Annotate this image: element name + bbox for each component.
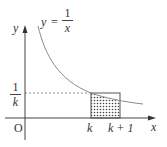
x-tick-k: k [87,122,92,134]
y-axis-label: y [13,22,18,34]
y-axis-arrow-icon [23,25,28,33]
curve-y-1-over-x [38,26,143,104]
shaded-area [91,93,120,118]
curve-label-y: y [41,16,46,28]
diagram-canvas [0,0,167,147]
x-axis-label: x [151,121,156,133]
origin-label: O [14,122,23,134]
curve-label-equals: = [51,16,58,28]
y-tick-1-over-k: 1 k [10,81,21,108]
x-tick-k-plus-1: k + 1 [108,122,133,134]
curve-label-fraction: 1 x [62,7,73,34]
